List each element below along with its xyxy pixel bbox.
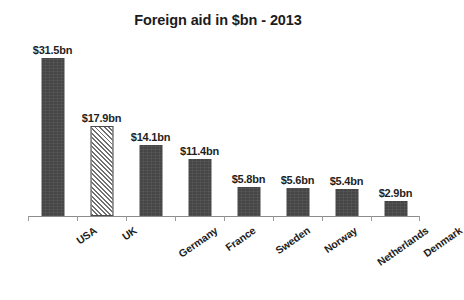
x-axis-label-norway: Norway <box>322 224 359 255</box>
x-axis-tick <box>77 216 78 221</box>
x-axis-label-uk: UK <box>120 224 139 242</box>
bar-group-sweden: $5.8bn <box>224 40 273 216</box>
bar-group-norway: $5.6bn <box>273 40 322 216</box>
bar-netherlands[interactable] <box>335 189 358 216</box>
x-axis-label-france: France <box>223 224 258 253</box>
bar-value-label-germany: $14.1bn <box>131 131 171 143</box>
bar-germany[interactable] <box>139 145 162 216</box>
bar-sweden[interactable] <box>237 187 260 216</box>
bar-denmark[interactable] <box>384 201 407 216</box>
x-axis-label-netherlands: Netherlands <box>375 224 431 268</box>
bar-uk[interactable] <box>90 126 113 216</box>
x-axis-label-sweden: Sweden <box>273 224 312 256</box>
bar-group-denmark: $2.9bn <box>371 40 420 216</box>
bar-group-netherlands: $5.4bn <box>322 40 371 216</box>
bar-value-label-norway: $5.6bn <box>281 174 315 186</box>
x-axis-tick <box>175 216 176 221</box>
plot-area: $31.5bn $17.9bn $14.1bn $11.4bn $5.8bn $… <box>28 40 420 216</box>
x-axis-tick <box>273 216 274 221</box>
x-axis-tick <box>371 216 372 221</box>
bar-value-label-france: $11.4bn <box>180 145 219 157</box>
bar-usa[interactable] <box>41 58 64 216</box>
bar-group-usa: $31.5bn <box>28 40 77 216</box>
x-axis-label-germany: Germany <box>176 224 220 260</box>
x-axis-tick <box>28 216 29 221</box>
bar-value-label-sweden: $5.8bn <box>232 173 266 185</box>
bar-group-germany: $14.1bn <box>126 40 175 216</box>
bar-value-label-netherlands: $5.4bn <box>330 175 364 187</box>
x-axis-tick <box>224 216 225 221</box>
bar-value-label-uk: $17.9bn <box>82 112 122 124</box>
x-axis-tick <box>419 216 420 221</box>
chart-title: Foreign aid in $bn - 2013 <box>0 12 436 28</box>
bar-group-uk: $17.9bn <box>77 40 126 216</box>
bar-france[interactable] <box>188 159 211 216</box>
bar-value-label-usa: $31.5bn <box>33 44 73 56</box>
bar-group-france: $11.4bn <box>175 40 224 216</box>
x-axis-tick <box>322 216 323 221</box>
x-axis-label-usa: USA <box>74 224 99 246</box>
x-axis-tick <box>126 216 127 221</box>
bar-norway[interactable] <box>286 188 309 216</box>
bar-value-label-denmark: $2.9bn <box>379 187 413 199</box>
